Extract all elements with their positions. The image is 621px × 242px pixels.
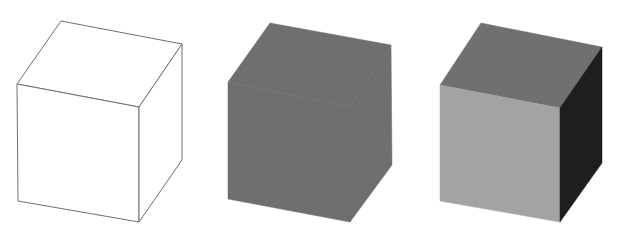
flat-shaded-cube-front-face [228,82,350,222]
cube-comparison-figure [0,0,621,242]
lit-shaded-cube-front-face [440,85,560,222]
lit-shaded-cube [440,23,602,222]
wireframe-cube-front-face [17,84,139,222]
flat-shaded-cube [228,23,392,222]
wireframe-cube [17,21,182,222]
